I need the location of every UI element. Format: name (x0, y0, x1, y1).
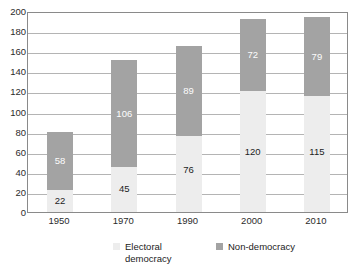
legend-label-non-democracy: Non-democracy (228, 241, 295, 253)
bar-value-label-non-democracy: 79 (304, 52, 330, 62)
legend-item-electoral-democracy[interactable]: Electoral democracy (113, 241, 171, 264)
x-axis-tick-label: 1990 (158, 216, 218, 226)
bar-value-label-electoral-democracy: 115 (304, 147, 330, 157)
bar-value-label-non-democracy: 58 (47, 156, 73, 166)
y-axis-tick-label: 160 (0, 47, 26, 57)
bar-column[interactable]: 7689 (176, 46, 202, 212)
legend-item-non-democracy[interactable]: Non-democracy (216, 241, 295, 253)
y-axis-tick-label: 180 (0, 27, 26, 37)
gridline (28, 33, 347, 34)
legend-swatch-non-democracy (216, 243, 223, 250)
bar-value-label-electoral-democracy: 22 (47, 196, 73, 206)
stacked-bar-chart: . 200180160140120100806040200 2258451067… (0, 0, 360, 273)
bar-column[interactable]: 11579 (304, 17, 330, 212)
bar-column[interactable]: 45106 (111, 60, 137, 212)
legend-swatch-electoral-democracy (113, 243, 120, 250)
y-axis-tick-label: 80 (0, 128, 26, 138)
x-axis-tick-label: 1970 (93, 216, 153, 226)
bar-column[interactable]: 12072 (240, 19, 266, 212)
y-axis-tick-label: 120 (0, 87, 26, 97)
y-axis-tick-label: 140 (0, 67, 26, 77)
y-axis-tick-label: 40 (0, 168, 26, 178)
y-axis-tick-label: 200 (0, 7, 26, 17)
x-axis-tick-label: 2010 (286, 216, 346, 226)
bar-value-label-non-democracy: 89 (176, 86, 202, 96)
y-axis-tick-label: 100 (0, 108, 26, 118)
x-axis-tick-label: 2000 (222, 216, 282, 226)
bar-value-label-electoral-democracy: 76 (176, 165, 202, 175)
bar-value-label-electoral-democracy: 120 (240, 147, 266, 157)
bar-value-label-electoral-democracy: 45 (111, 184, 137, 194)
chart-legend: Electoral democracy Non-democracy (0, 241, 360, 273)
scan-artifact: . (0, 0, 360, 5)
bar-column[interactable]: 2258 (47, 132, 73, 212)
bar-value-label-non-democracy: 106 (111, 109, 137, 119)
y-axis-tick-label: 0 (0, 208, 26, 218)
plot-area: 22584510676891207211579 (27, 12, 348, 213)
legend-label-electoral-democracy: Electoral democracy (125, 241, 171, 264)
x-axis-tick-label: 1950 (29, 216, 89, 226)
y-axis-tick-label: 20 (0, 188, 26, 198)
y-axis-tick-label: 60 (0, 148, 26, 158)
bar-value-label-non-democracy: 72 (240, 50, 266, 60)
